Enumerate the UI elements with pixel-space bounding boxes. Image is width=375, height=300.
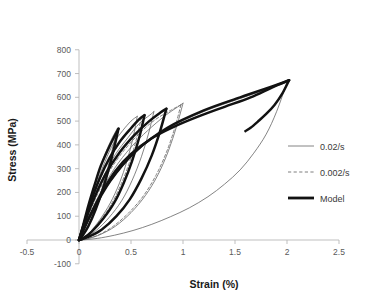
x-tick-label: 2 [285,247,290,257]
x-tick-label: 1.5 [229,247,241,257]
y-tick-label: 300 [57,164,71,174]
curve-layer [79,80,289,240]
y-tick-label: 200 [57,187,71,197]
x-tick-label: 0.5 [125,247,137,257]
tick-label-layer: -1000100200300400500600700800-0.500.511.… [20,45,346,269]
y-tick-label: -100 [54,259,71,269]
curve-002s-unload [79,103,183,240]
x-axis-title: Strain (%) [189,278,238,290]
legend-label-0: 0.02/s [320,142,345,152]
x-tick-label: -0.5 [20,247,35,257]
y-tick-label: 100 [57,211,71,221]
stress-strain-chart: -1000100200300400500600700800-0.500.511.… [0,0,375,300]
y-tick-label: 500 [57,116,71,126]
x-tick-label: 0 [77,247,82,257]
y-tick-label: 800 [57,45,71,55]
y-tick-label: 600 [57,92,71,102]
chart-canvas: -1000100200300400500600700800-0.500.511.… [0,0,375,300]
axis-layer [27,50,339,264]
legend-label-1: 0.002/s [320,168,350,178]
y-tick-label: 400 [57,140,71,150]
x-tick-label: 1 [181,247,186,257]
curve-0002s-unload [79,105,181,240]
legend-label-2: Model [320,194,345,204]
curve-002s-load [79,103,183,240]
curve-0002s-load [79,105,181,240]
y-axis-title: Stress (MPa) [6,118,18,182]
legend-layer: 0.02/s0.002/sModel [288,142,350,204]
y-tick-label: 0 [66,235,71,245]
y-tick-label: 700 [57,69,71,79]
x-tick-label: 2.5 [333,247,345,257]
